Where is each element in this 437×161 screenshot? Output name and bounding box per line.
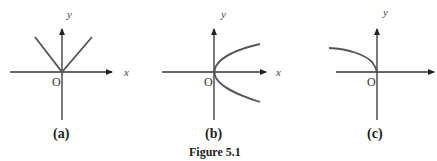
origin-label: O — [52, 75, 61, 89]
panel-c: y O — [329, 6, 434, 120]
origin-label: O — [367, 75, 376, 89]
panel-a: y x O — [10, 8, 129, 120]
y-axis-label: y — [220, 8, 226, 20]
panel-a-label: (a) — [53, 126, 69, 142]
x-axis-label: x — [275, 66, 281, 78]
y-axis-label: y — [66, 8, 72, 20]
panel-b-label: (b) — [205, 126, 222, 142]
panel-b: y x O — [162, 8, 281, 120]
y-axis-label: y — [382, 6, 388, 18]
origin-label: O — [204, 75, 213, 89]
parabola-curve — [215, 44, 261, 102]
figure-caption: Figure 5.1 — [189, 145, 241, 160]
x-axis-label: x — [123, 66, 129, 78]
panel-c-label: (c) — [367, 126, 383, 142]
sqrt-curve — [329, 48, 377, 72]
v-curve — [35, 37, 92, 72]
